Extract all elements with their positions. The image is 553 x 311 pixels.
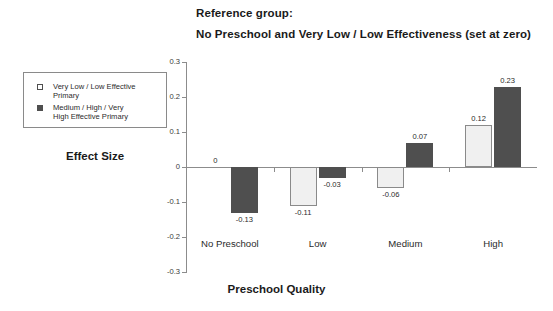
chart-subtitle: Reference group: xyxy=(196,7,293,19)
open-square-icon xyxy=(37,84,43,90)
bar-value-label: -0.06 xyxy=(369,190,412,199)
y-axis-tick-label: -0.3 xyxy=(167,267,180,276)
bar-value-label: 0 xyxy=(194,156,237,165)
bar xyxy=(319,167,346,178)
filled-square-icon xyxy=(37,105,43,111)
x-axis-category-label: High xyxy=(449,238,537,249)
bar xyxy=(377,167,404,188)
y-axis-tick-mark xyxy=(182,97,187,98)
y-axis-tick-mark xyxy=(182,202,187,203)
legend-item-medium-high: Medium / High / Very High Effective Prim… xyxy=(37,103,128,122)
y-axis-tick-label: -0.2 xyxy=(167,232,180,241)
y-axis-tick-label: 0.1 xyxy=(169,127,180,136)
y-axis-tick-mark xyxy=(182,272,187,273)
y-axis-tick-label: 0.3 xyxy=(169,57,180,66)
legend-item-very-low-low: Very Low / Low Effective Primary xyxy=(37,82,136,101)
chart-title: No Preschool and Very Low / Low Effectiv… xyxy=(196,28,531,40)
y-axis-tick-label: -0.1 xyxy=(167,197,180,206)
legend-item-label: Very Low / Low Effective Primary xyxy=(53,82,136,101)
x-axis-title: Preschool Quality xyxy=(0,283,553,295)
bar xyxy=(406,143,433,168)
y-axis-title: Effect Size xyxy=(66,150,124,162)
x-axis-category-label: No Preschool xyxy=(186,238,274,249)
bar-value-label: 0.07 xyxy=(398,132,441,141)
x-axis-tick-mark xyxy=(362,167,363,172)
bar-value-label: -0.03 xyxy=(311,180,354,189)
bar-value-label: -0.13 xyxy=(223,215,266,224)
y-axis-tick-mark xyxy=(182,132,187,133)
bar xyxy=(465,125,492,167)
bar xyxy=(231,167,258,213)
bar-value-label: -0.11 xyxy=(282,208,325,217)
x-axis-category-label: Low xyxy=(274,238,362,249)
x-axis-tick-mark xyxy=(274,167,275,172)
bar-value-label: 0.23 xyxy=(486,76,529,85)
y-axis-tick-mark xyxy=(182,167,187,168)
chart-legend: Very Low / Low Effective Primary Medium … xyxy=(23,72,167,128)
bar xyxy=(494,87,521,168)
x-axis-tick-mark xyxy=(449,167,450,172)
legend-item-label: Medium / High / Very High Effective Prim… xyxy=(53,103,128,122)
y-axis-tick-mark xyxy=(182,62,187,63)
plot-area: 0.30.20.10-0.1-0.2-0.3 0-0.13-0.11-0.03-… xyxy=(186,62,537,272)
x-axis-category-label: Medium xyxy=(362,238,450,249)
chart-page: Reference group: No Preschool and Very L… xyxy=(0,0,553,311)
y-axis-tick-label: 0.2 xyxy=(169,92,180,101)
y-axis-tick-label: 0 xyxy=(176,162,180,171)
